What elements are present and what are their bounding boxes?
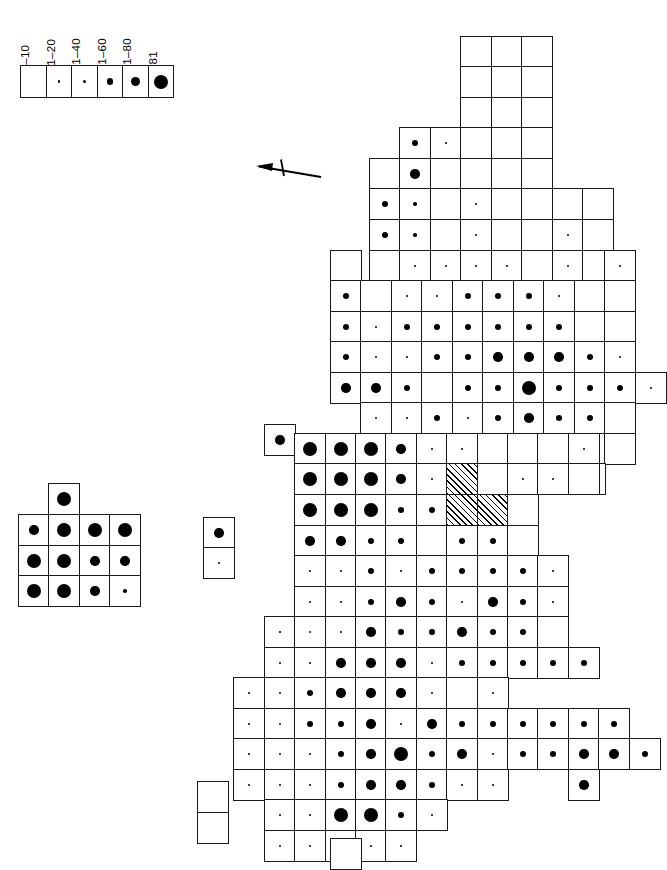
- record-dot: [404, 385, 410, 391]
- map-cell: [477, 525, 509, 557]
- map-cell: [477, 616, 509, 648]
- map-cell: [446, 769, 478, 801]
- map-cell: [294, 769, 326, 801]
- map-cell: [355, 586, 387, 618]
- record-dot: [396, 780, 405, 789]
- inset-islands-cell: [79, 545, 111, 577]
- legend-swatch-2[interactable]: [71, 65, 98, 98]
- record-dot: [445, 265, 447, 267]
- record-dot: [341, 383, 350, 392]
- record-dot: [431, 448, 433, 450]
- legend-swatch-3[interactable]: [97, 65, 124, 98]
- map-cell: [416, 738, 448, 770]
- map-cell: [399, 127, 431, 159]
- map-cell: [416, 616, 448, 648]
- record-dot: [406, 417, 408, 419]
- map-cell: [294, 708, 326, 740]
- map-cell: [543, 280, 575, 312]
- map-cell: [460, 97, 492, 129]
- record-dot: [522, 478, 524, 480]
- record-dot: [309, 662, 311, 664]
- map-cell: [385, 586, 417, 618]
- map-cell: [507, 708, 539, 740]
- inset-islands-cell: [109, 514, 141, 546]
- inset-islands-cell: [18, 514, 50, 546]
- map-cell: [325, 494, 357, 526]
- record-dot: [396, 688, 405, 697]
- map-cell: [537, 433, 569, 465]
- map-cell: [521, 36, 553, 68]
- record-dot: [490, 629, 496, 635]
- record-dot: [307, 690, 313, 696]
- record-dot: [457, 749, 466, 758]
- record-dot: [495, 324, 501, 330]
- map-cell: [491, 66, 523, 98]
- map-cell: [430, 158, 462, 190]
- map-cell: [537, 616, 569, 648]
- legend-labels: 1–1011–2021–4041–6061–80>81: [20, 8, 195, 66]
- map-cell: [233, 738, 265, 770]
- map-cell: [568, 769, 600, 801]
- map-cell: [325, 463, 357, 495]
- record-dot: [336, 536, 345, 545]
- record-dot: [475, 203, 477, 205]
- record-dot: [552, 570, 554, 572]
- map-cell: [421, 280, 453, 312]
- record-dot: [336, 688, 345, 697]
- record-dot: [248, 753, 250, 755]
- legend-dot-2: [83, 80, 87, 84]
- record-dot: [279, 784, 281, 786]
- map-cell: [385, 769, 417, 801]
- map-cell: [294, 494, 326, 526]
- map-cell: [537, 738, 569, 770]
- map-cell: [264, 769, 296, 801]
- inset-islands-cell: [48, 545, 80, 577]
- legend-swatch-1[interactable]: [46, 65, 73, 98]
- record-dot: [334, 808, 348, 822]
- map-cell: [537, 586, 569, 618]
- record-dot: [334, 472, 348, 486]
- record-dot: [248, 692, 250, 694]
- record-dot: [305, 536, 314, 545]
- map-cell: [385, 799, 417, 831]
- record-dot: [581, 660, 587, 666]
- map-cell: [574, 402, 606, 434]
- legend-swatch-5[interactable]: [148, 65, 175, 98]
- map-cell: [477, 463, 509, 495]
- map-cell: [574, 341, 606, 373]
- record-dot: [27, 584, 41, 598]
- map-cell: [385, 616, 417, 648]
- map-cell: [416, 799, 448, 831]
- map-cell: [385, 494, 417, 526]
- map-cell: [391, 341, 423, 373]
- record-dot: [275, 435, 284, 444]
- map-cell: [421, 372, 453, 404]
- record-dot: [370, 845, 372, 847]
- record-dot: [431, 478, 433, 480]
- map-cell: [294, 738, 326, 770]
- map-cell: [355, 769, 387, 801]
- record-dot: [492, 753, 494, 755]
- record-dot: [434, 354, 440, 360]
- record-dot: [396, 658, 405, 667]
- map-cell: [399, 250, 431, 282]
- map-cell: [513, 341, 545, 373]
- inset-islands-cell: [18, 545, 50, 577]
- inset-islands-cell: [48, 514, 80, 546]
- record-dot: [118, 523, 132, 537]
- record-dot: [611, 721, 617, 727]
- record-dot: [465, 324, 471, 330]
- legend-swatch-0[interactable]: [20, 65, 47, 98]
- record-dot: [218, 562, 220, 564]
- record-dot: [467, 417, 469, 419]
- record-dot: [340, 631, 342, 633]
- legend-swatch-4[interactable]: [122, 65, 149, 98]
- map-cell: [355, 555, 387, 587]
- map-cell: [325, 616, 357, 648]
- record-dot: [445, 142, 447, 144]
- record-dot: [400, 570, 402, 572]
- map-cell: [264, 647, 296, 679]
- map-cell: [521, 158, 553, 190]
- map-cell: [552, 250, 584, 282]
- map-cell: [325, 525, 357, 557]
